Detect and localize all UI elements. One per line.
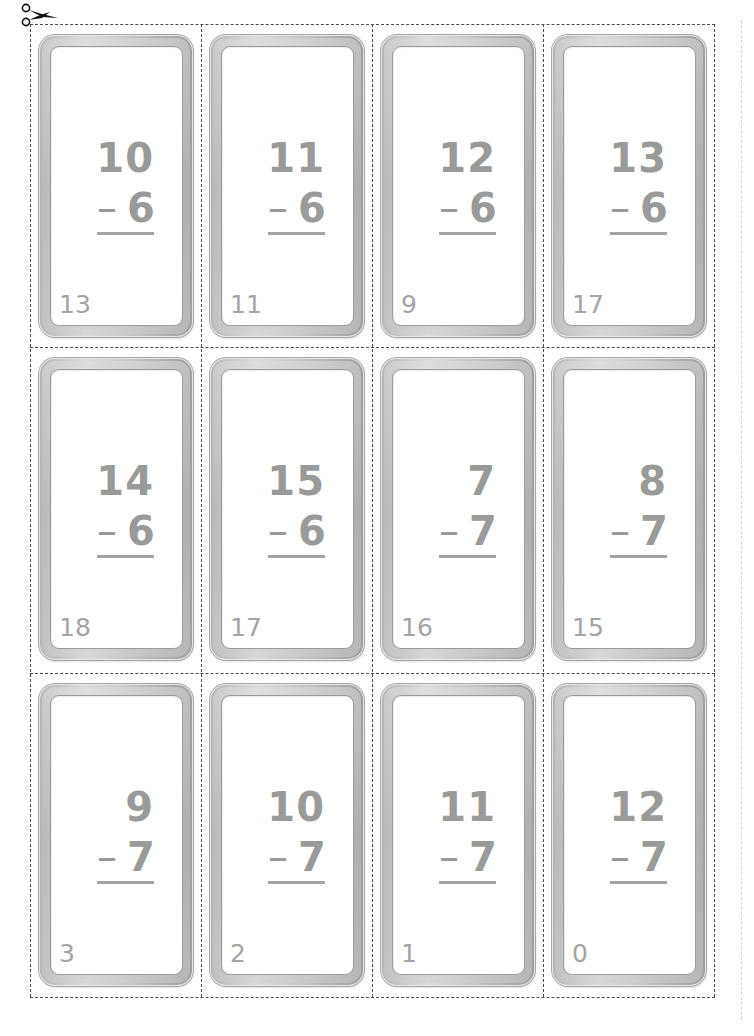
flash-card: 9 –7 3 [39, 684, 193, 986]
flash-card: 12 –7 0 [552, 684, 706, 986]
subtrahend: 7 [127, 834, 155, 880]
flash-card: 8 –7 15 [552, 358, 706, 660]
minuend: 7 [439, 455, 496, 507]
flash-card: 15 –6 17 [210, 358, 364, 660]
minus-sign: – [439, 185, 459, 231]
minus-sign: – [97, 834, 117, 880]
minus-sign: – [268, 834, 288, 880]
problem: 12 –6 [438, 132, 496, 235]
cut-line-right [714, 24, 715, 997]
answer-key: 2 [230, 939, 246, 968]
answer-key: 13 [59, 290, 91, 319]
flash-card-sheet: 10 –6 13 11 –6 11 12 –6 9 13 –6 [0, 0, 754, 1036]
answer-key: 0 [572, 939, 588, 968]
minus-sign: – [268, 185, 288, 231]
answer-key: 11 [230, 290, 262, 319]
problem: 7 –7 [439, 455, 496, 558]
problem: 9 –7 [97, 781, 154, 884]
minuend: 8 [610, 455, 667, 507]
subtrahend: 6 [469, 185, 497, 231]
flash-card: 11 –7 1 [381, 684, 535, 986]
minus-sign: – [439, 834, 459, 880]
problem: 13 –6 [609, 132, 667, 235]
cut-line-col1 [201, 24, 202, 997]
minus-sign: – [610, 834, 630, 880]
cut-line-col2 [372, 24, 373, 997]
subtrahend: 6 [298, 508, 326, 554]
subtrahend: 7 [298, 834, 326, 880]
page-edge-line [741, 20, 742, 1020]
answer-key: 1 [401, 939, 417, 968]
minuend: 10 [96, 132, 154, 184]
subtrahend: 6 [127, 508, 155, 554]
flash-card: 11 –6 11 [210, 35, 364, 337]
cut-line-bottom [30, 997, 715, 998]
minuend: 14 [96, 455, 154, 507]
answer-key: 17 [230, 613, 262, 642]
subtrahend: 6 [127, 185, 155, 231]
flash-card: 7 –7 16 [381, 358, 535, 660]
answer-key: 3 [59, 939, 75, 968]
answer-key: 16 [401, 613, 433, 642]
answer-key: 9 [401, 290, 417, 319]
problem: 11 –6 [267, 132, 325, 235]
minus-sign: – [610, 185, 630, 231]
flash-card: 12 –6 9 [381, 35, 535, 337]
subtrahend: 7 [469, 834, 497, 880]
subtrahend: 7 [640, 508, 668, 554]
minuend: 12 [438, 132, 496, 184]
flash-card: 10 –6 13 [39, 35, 193, 337]
minus-sign: – [439, 508, 459, 554]
problem: 15 –6 [267, 455, 325, 558]
subtrahend: 6 [640, 185, 668, 231]
minus-sign: – [610, 508, 630, 554]
minuend: 11 [438, 781, 496, 833]
problem: 12 –7 [609, 781, 667, 884]
cut-line-col3 [543, 24, 544, 997]
minuend: 12 [609, 781, 667, 833]
minuend: 9 [97, 781, 154, 833]
minus-sign: – [97, 185, 117, 231]
answer-key: 17 [572, 290, 604, 319]
minuend: 15 [267, 455, 325, 507]
minus-sign: – [97, 508, 117, 554]
problem: 10 –7 [267, 781, 325, 884]
subtrahend: 7 [640, 834, 668, 880]
flash-card: 10 –7 2 [210, 684, 364, 986]
problem: 8 –7 [610, 455, 667, 558]
minuend: 10 [267, 781, 325, 833]
answer-key: 15 [572, 613, 604, 642]
minus-sign: – [268, 508, 288, 554]
problem: 11 –7 [438, 781, 496, 884]
answer-key: 18 [59, 613, 91, 642]
subtrahend: 6 [298, 185, 326, 231]
subtrahend: 7 [469, 508, 497, 554]
cut-line-left [30, 24, 31, 997]
flash-card: 13 –6 17 [552, 35, 706, 337]
problem: 10 –6 [96, 132, 154, 235]
problem: 14 –6 [96, 455, 154, 558]
minuend: 13 [609, 132, 667, 184]
flash-card: 14 –6 18 [39, 358, 193, 660]
minuend: 11 [267, 132, 325, 184]
